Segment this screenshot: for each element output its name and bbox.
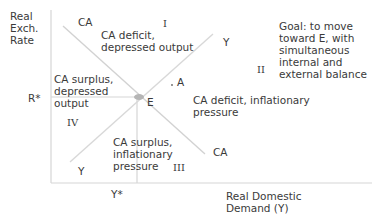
point-a-label: A	[177, 76, 184, 88]
zone-iii-text: CA surplus, inflationary pressure	[113, 136, 173, 172]
swan-diagram: Real Exch. Rate Real Domestic Demand (Y)…	[0, 0, 383, 224]
x-axis-label: Real Domestic Demand (Y)	[226, 190, 301, 214]
goal-note: Goal: to move toward E, with simultaneou…	[279, 20, 367, 80]
goal-note-line: simultaneous	[279, 44, 367, 56]
zone-ii-text: CA deficit, inflationary pressure	[193, 94, 310, 118]
zone-iii-numeral: III	[173, 162, 185, 174]
r-star-tick: R*	[28, 92, 41, 104]
zone-iii-line: CA surplus,	[113, 136, 173, 148]
ca-line-label-top: CA	[78, 16, 93, 28]
zone-iii-line: pressure	[113, 160, 173, 172]
goal-note-line: internal and	[279, 56, 367, 68]
goal-note-line: Goal: to move	[279, 20, 367, 32]
zone-ii-line: CA deficit, inflationary	[193, 94, 310, 106]
zone-ii-numeral: II	[257, 64, 265, 76]
y-axis-label-line: Rate	[10, 34, 38, 46]
zone-ii-line: pressure	[193, 106, 310, 118]
goal-note-line: external balance	[279, 68, 367, 80]
point-a-dot	[171, 84, 173, 86]
goal-note-line: toward E, with	[279, 32, 367, 44]
y-axis-label: Real Exch. Rate	[10, 10, 38, 46]
ca-line-label-bottom: CA	[213, 146, 228, 158]
zone-iv-line: output	[54, 97, 113, 109]
zone-iv-line: depressed	[54, 85, 113, 97]
zone-iv-numeral: IV	[67, 117, 78, 129]
zone-iv-line: CA surplus,	[54, 73, 113, 85]
zone-i-line: CA deficit,	[101, 29, 193, 41]
equilibrium-label: E	[147, 96, 154, 108]
zone-iii-line: inflationary	[113, 148, 173, 160]
x-axis-label-line: Demand (Y)	[226, 202, 301, 214]
x-axis-label-line: Real Domestic	[226, 190, 301, 202]
y-line-label-top: Y	[223, 36, 229, 48]
zone-i-line: depressed output	[101, 41, 193, 53]
equilibrium-point	[134, 94, 144, 100]
zone-iv-text: CA surplus, depressed output	[54, 73, 113, 109]
y-axis-label-line: Exch.	[10, 22, 38, 34]
y-line-label-bottom: Y	[78, 165, 84, 177]
zone-i-text: CA deficit, depressed output	[101, 29, 193, 53]
y-axis-label-line: Real	[10, 10, 38, 22]
y-star-tick: Y*	[111, 188, 123, 200]
